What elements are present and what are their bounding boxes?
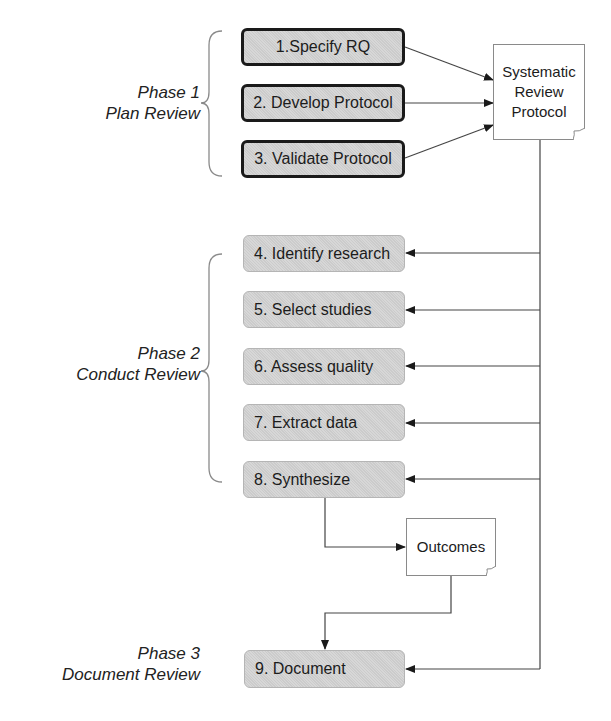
protocol-document[interactable]: Systematic Review Protocol bbox=[493, 44, 585, 140]
step-label: 3. Validate Protocol bbox=[254, 150, 392, 168]
step-document[interactable]: 9. Document bbox=[244, 650, 405, 688]
step-label: 5. Select studies bbox=[254, 301, 371, 319]
phase-3-label: Phase 3 Document Review bbox=[0, 643, 200, 685]
outcomes-document[interactable]: Outcomes bbox=[406, 518, 496, 576]
step-extract-data[interactable]: 7. Extract data bbox=[243, 404, 405, 441]
phase1-brace bbox=[201, 31, 222, 176]
step-label: 1.Specify RQ bbox=[276, 38, 370, 56]
step-specify-rq[interactable]: 1.Specify RQ bbox=[241, 28, 405, 66]
phase-2-subtitle: Conduct Review bbox=[0, 364, 200, 385]
phase-2-label: Phase 2 Conduct Review bbox=[0, 343, 200, 385]
step-label: 9. Document bbox=[255, 660, 346, 678]
phase-1-label: Phase 1 Plan Review bbox=[0, 82, 200, 124]
phase-1-title: Phase 1 bbox=[0, 82, 200, 103]
protocol-line-1: Systematic bbox=[502, 62, 575, 82]
step-synthesize[interactable]: 8. Synthesize bbox=[243, 461, 405, 498]
step-assess-quality[interactable]: 6. Assess quality bbox=[243, 348, 405, 385]
step-label: 6. Assess quality bbox=[254, 358, 373, 376]
step-select-studies[interactable]: 5. Select studies bbox=[243, 291, 405, 328]
outcomes-label: Outcomes bbox=[417, 537, 485, 557]
phase-3-subtitle: Document Review bbox=[0, 664, 200, 685]
phase2-brace bbox=[201, 254, 222, 482]
phase-3-title: Phase 3 bbox=[0, 643, 200, 664]
step-label: 7. Extract data bbox=[254, 414, 357, 432]
phase-2-title: Phase 2 bbox=[0, 343, 200, 364]
page-curl-icon bbox=[486, 566, 496, 576]
step-label: 2. Develop Protocol bbox=[253, 94, 393, 112]
step-validate-protocol[interactable]: 3. Validate Protocol bbox=[241, 140, 405, 178]
phase-1-subtitle: Plan Review bbox=[0, 103, 200, 124]
step-identify-research[interactable]: 4. Identify research bbox=[243, 235, 405, 272]
step-label: 4. Identify research bbox=[254, 245, 390, 263]
workflow-diagram: Phase 1 Plan Review Phase 2 Conduct Revi… bbox=[0, 0, 611, 721]
step-label: 8. Synthesize bbox=[254, 471, 350, 489]
protocol-line-2: Review bbox=[502, 82, 575, 102]
page-curl-icon bbox=[573, 128, 585, 140]
step-develop-protocol[interactable]: 2. Develop Protocol bbox=[241, 84, 405, 122]
protocol-line-3: Protocol bbox=[502, 102, 575, 122]
